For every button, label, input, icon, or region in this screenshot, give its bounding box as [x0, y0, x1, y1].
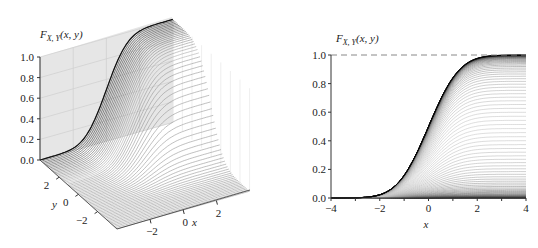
- x-axis-ticks: −4−2024: [325, 198, 529, 214]
- surface-3d-chart: 0.00.20.40.60.81.0 20−2−202 FX, Y(x, y) …: [0, 0, 270, 248]
- y-tick-label: 0.2: [312, 163, 326, 175]
- z-axis-label: FX, Y(x, y): [39, 28, 83, 43]
- z-tick-label: 0.4: [20, 113, 34, 125]
- y-tick-label: 0: [63, 196, 69, 208]
- x-tick-label: 0: [426, 202, 432, 214]
- x-tick-label: −4: [325, 202, 337, 214]
- y-tick-label: 0.6: [312, 106, 326, 118]
- y-axis-label: y: [51, 198, 57, 210]
- x-tick-label: 0: [182, 216, 188, 228]
- y-tick-label: 0.4: [312, 135, 326, 147]
- x-axis-label: x: [423, 218, 429, 230]
- y-axis-ticks: 0.00.20.40.60.81.0: [312, 49, 331, 204]
- y-tick-label: 1.0: [312, 49, 326, 61]
- y-tick-label: −2: [76, 214, 88, 226]
- z-tick-label: 0.2: [20, 133, 34, 145]
- x-axis-label: x: [191, 216, 197, 228]
- z-tick-label: 0.8: [20, 72, 34, 84]
- surface-3d-plot-area: 0.00.20.40.60.81.0 20−2−202 FX, Y(x, y) …: [0, 0, 270, 248]
- y-axis-label: FX, Y(x, y): [335, 32, 379, 47]
- x-tick-label: −2: [146, 225, 158, 237]
- z-tick-label: 0.6: [20, 92, 34, 104]
- z-axis-ticks: 0.00.20.40.60.81.0: [20, 51, 40, 166]
- x-tick-label: 4: [523, 202, 529, 214]
- cdf-curves: [331, 55, 526, 198]
- x-tick-label: 2: [216, 207, 222, 219]
- y-tick-label: 2: [44, 179, 50, 191]
- line-chart: 0.00.20.40.60.81.0 −4−2024 FX, Y(x, y) x: [270, 0, 538, 248]
- line-plot-area: 0.00.20.40.60.81.0 −4−2024 FX, Y(x, y) x: [270, 0, 538, 248]
- z-tick-label: 0.0: [20, 154, 34, 166]
- z-tick-label: 1.0: [20, 51, 34, 63]
- y-tick-label: 0.8: [312, 78, 326, 90]
- x-tick-label: −2: [374, 202, 386, 214]
- x-tick-label: 2: [475, 202, 481, 214]
